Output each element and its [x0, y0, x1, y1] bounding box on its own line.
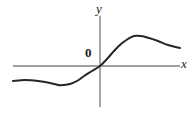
x-axis-label: x: [181, 57, 187, 70]
origin-label: 0: [85, 46, 92, 59]
plot-canvas: [0, 0, 195, 114]
function-graph-figure: y x 0: [0, 0, 195, 114]
y-axis-label: y: [96, 2, 102, 15]
function-curve: [13, 36, 180, 86]
